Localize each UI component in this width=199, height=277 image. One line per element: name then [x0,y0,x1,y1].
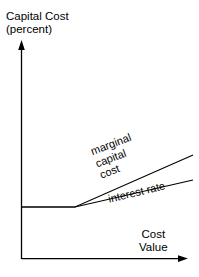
x-axis-arrowhead [178,255,188,262]
capital-cost-figure: Capital Cost (percent) Cost Value margin… [0,0,199,277]
y-axis-arrowhead [18,40,25,50]
x-axis-title-line-1: Cost [139,228,168,241]
y-axis-title-line-2: (percent) [6,23,69,36]
y-axis-title-line-1: Capital Cost [6,10,69,23]
x-axis-title-line-2: Value [139,241,168,254]
y-axis-title: Capital Cost (percent) [6,10,69,35]
x-axis-title: Cost Value [139,228,168,253]
plot-canvas [0,0,199,277]
